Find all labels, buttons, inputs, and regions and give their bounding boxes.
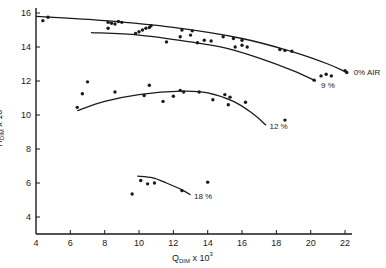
data-point xyxy=(146,182,149,185)
data-point xyxy=(227,103,230,106)
data-point xyxy=(221,35,224,38)
data-point xyxy=(223,93,226,96)
x-tick-label: 8 xyxy=(102,238,107,248)
data-point xyxy=(197,90,200,93)
data-point xyxy=(191,29,194,32)
data-point xyxy=(41,19,44,22)
data-point xyxy=(179,35,182,38)
x-tick-label: 4 xyxy=(33,238,38,248)
curve-labels: 0% AIR9 %12 %18 % xyxy=(194,68,381,201)
data-point xyxy=(233,45,236,48)
data-point xyxy=(180,189,183,192)
y-tick-label: 12 xyxy=(21,76,31,86)
data-point xyxy=(244,101,247,104)
y-axis-title-main: H xyxy=(0,140,4,147)
data-point xyxy=(148,26,151,29)
data-point xyxy=(113,22,116,25)
data-point xyxy=(120,21,123,24)
x-tick-label: 20 xyxy=(306,238,316,248)
data-point xyxy=(182,90,185,93)
data-point xyxy=(113,90,116,93)
data-point xyxy=(134,32,137,35)
y-axis-title-mid: x 10 xyxy=(0,110,4,130)
x-axis-title-sub: DIM xyxy=(179,258,190,264)
fit-curve-12- xyxy=(77,91,266,125)
x-axis-title-main: Q xyxy=(172,253,179,263)
data-point xyxy=(232,37,235,40)
x-tick-label: 16 xyxy=(237,238,247,248)
y-tick-label: 4 xyxy=(26,212,31,222)
data-point xyxy=(283,49,286,52)
data-point xyxy=(81,92,84,95)
data-point xyxy=(203,39,206,42)
data-point xyxy=(290,50,293,53)
curve-label: 18 % xyxy=(194,192,212,201)
x-axis-title: QDIM x 103 xyxy=(172,251,213,264)
data-point xyxy=(312,78,315,81)
y-tick-label: 10 xyxy=(21,110,31,120)
curve-label: 0% AIR xyxy=(354,68,381,77)
data-point xyxy=(142,94,145,97)
axes: 4681012141618202246810121416 xyxy=(21,8,352,248)
data-point xyxy=(106,21,109,24)
data-point xyxy=(330,74,333,77)
x-axis-title-sup: 3 xyxy=(210,251,213,257)
data-point xyxy=(179,89,182,92)
y-axis-title-sub: DIM xyxy=(0,129,5,140)
data-point xyxy=(130,192,133,195)
x-tick-label: 14 xyxy=(203,238,213,248)
data-point xyxy=(144,27,147,30)
curve-label: 9 % xyxy=(321,81,335,90)
data-point xyxy=(86,80,89,83)
data-point xyxy=(117,20,120,23)
data-point xyxy=(324,73,327,76)
data-point xyxy=(76,106,79,109)
data-point xyxy=(211,98,214,101)
data-point xyxy=(46,16,49,19)
data-point xyxy=(172,95,175,98)
data-point xyxy=(189,33,192,36)
data-point xyxy=(345,71,348,74)
data-point xyxy=(106,27,109,30)
y-tick-label: 8 xyxy=(26,144,31,154)
x-tick-label: 12 xyxy=(168,238,178,248)
chart-canvas: 4681012141618202246810121416 0% AIR9 %12… xyxy=(0,0,386,268)
data-point xyxy=(319,74,322,77)
data-point xyxy=(240,44,243,47)
y-tick-label: 16 xyxy=(21,8,31,18)
y-axis-title: HDIM x 103 xyxy=(0,106,5,146)
data-point xyxy=(139,179,142,182)
data-point xyxy=(206,180,209,183)
x-tick-label: 22 xyxy=(340,238,350,248)
data-point xyxy=(141,28,144,31)
data-point xyxy=(148,84,151,87)
data-point xyxy=(153,181,156,184)
data-point xyxy=(110,22,113,25)
y-tick-label: 14 xyxy=(21,42,31,52)
data-point xyxy=(196,41,199,44)
data-point xyxy=(228,95,231,98)
data-point xyxy=(165,40,168,43)
fit-curve-0-air xyxy=(36,16,347,72)
curve-label: 12 % xyxy=(270,122,288,131)
data-point xyxy=(245,45,248,48)
data-point xyxy=(209,39,212,42)
fit-curves xyxy=(36,16,347,195)
x-tick-label: 10 xyxy=(134,238,144,248)
y-tick-label: 6 xyxy=(26,178,31,188)
data-point xyxy=(161,100,164,103)
x-tick-label: 6 xyxy=(68,238,73,248)
data-point xyxy=(278,48,281,51)
x-axis-title-mid: x 10 xyxy=(190,253,210,263)
data-point xyxy=(180,28,183,31)
data-point xyxy=(137,30,140,33)
x-tick-label: 18 xyxy=(271,238,281,248)
data-point xyxy=(240,39,243,42)
